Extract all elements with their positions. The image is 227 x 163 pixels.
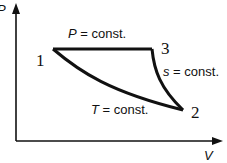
y-axis-arrow-icon — [12, 3, 20, 14]
point-3-label: 3 — [161, 39, 170, 58]
isentropic-label: s = const. — [163, 64, 219, 79]
x-axis-arrow-icon — [212, 137, 223, 145]
isothermal-label: T = const. — [91, 102, 148, 117]
pv-diagram: P V 1 3 2 P = const. s = const. T = cons… — [0, 0, 227, 163]
isentropic-curve — [152, 49, 183, 110]
x-axis-label: V — [204, 148, 214, 163]
isothermal-curve — [53, 49, 183, 110]
isobaric-label: P = const. — [68, 26, 126, 41]
point-2-label: 2 — [191, 103, 200, 122]
y-axis-label: P — [0, 2, 6, 17]
point-1-label: 1 — [36, 51, 45, 70]
